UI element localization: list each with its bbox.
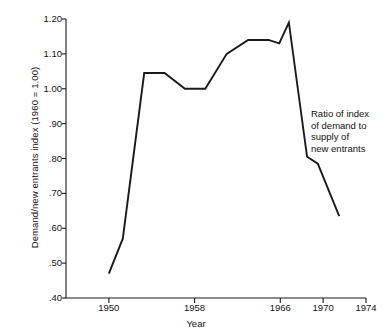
axis-spines <box>66 19 366 298</box>
data-series-group <box>109 22 339 273</box>
plot-area <box>0 0 383 336</box>
tick-marks-group <box>62 19 366 303</box>
chart-figure: Demand/new entrants index (1960 = 1.00) … <box>0 0 383 336</box>
data-line-0 <box>109 22 339 273</box>
axes-group <box>66 19 366 298</box>
